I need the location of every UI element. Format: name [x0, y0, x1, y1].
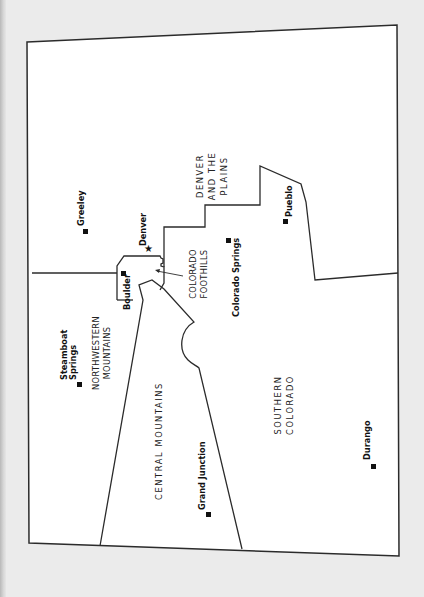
steamboat-springs-marker [77, 382, 82, 387]
durango-marker [371, 464, 376, 469]
map-page: ★ Greeley Denver Boulder Colorado Spring… [0, 0, 424, 597]
region-label-nw-line1: NORTHWESTERN [91, 316, 101, 390]
region-label-southern-line1: SOUTHERN [273, 375, 283, 434]
city-label-durango: Durango [362, 420, 372, 460]
region-label-nw-line2: MOUNTAINS [102, 327, 112, 380]
region-label-foothills-line2: FOOTHILLS [199, 250, 209, 299]
city-label-grand-junction: Grand Junction [197, 441, 207, 510]
greeley-marker [83, 229, 88, 234]
region-label-denver-line1: DENVER [195, 154, 205, 198]
city-label-greeley: Greeley [76, 190, 86, 226]
region-label-central-mountains: CENTRAL MOUNTAINS [154, 382, 164, 500]
city-label-pueblo: Pueblo [284, 185, 294, 217]
city-label-colorado-springs: Colorado Springs [231, 238, 241, 317]
region-label-denver-line2: AND THE [207, 152, 217, 201]
city-label-springs: Springs [68, 345, 78, 380]
region-label-southern-line2: COLORADO [285, 375, 295, 435]
city-label-denver: Denver [138, 212, 148, 246]
city-label-boulder: Boulder [122, 273, 132, 310]
region-label-foothills-line1: COLORADO [188, 249, 198, 299]
state-outline [27, 25, 399, 556]
region-label-denver-line3: PLAINS [219, 156, 229, 195]
colorado-region-map: ★ Greeley Denver Boulder Colorado Spring… [0, 0, 424, 597]
pueblo-marker [283, 219, 288, 224]
grand-junction-marker [206, 512, 211, 517]
